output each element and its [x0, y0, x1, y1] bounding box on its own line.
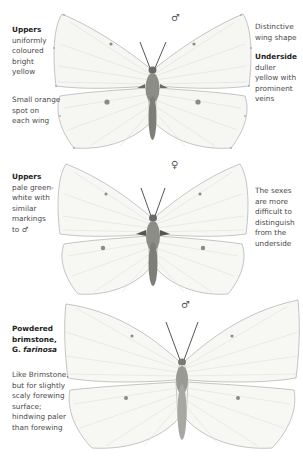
caption-line: surface; — [12, 402, 69, 413]
caption-heading: Underside — [255, 52, 297, 63]
caption-line: white with — [12, 193, 54, 204]
caption-line: yellow — [12, 67, 47, 78]
caption-line: wing shape — [255, 33, 297, 44]
caption-line: The sexes — [255, 186, 295, 197]
caption-line: hindwing paler — [12, 412, 69, 423]
caption-line: distinguish — [255, 218, 295, 229]
caption-line: duller — [255, 63, 297, 74]
caption-line: prominent — [255, 84, 297, 95]
caption-line: difficult to — [255, 207, 295, 218]
species-name-line: Powdered — [12, 324, 57, 335]
species-latin-name: G. farinosa — [12, 345, 57, 356]
caption-heading: Uppers — [12, 25, 47, 36]
caption-female-underside-note: The sexes are more difficult to distingu… — [255, 186, 295, 250]
caption-line: each wing — [12, 116, 60, 127]
caption-male-spot: Small orange spot on each wing — [12, 95, 60, 127]
caption-line: Distinctive — [255, 22, 297, 33]
caption-line: but for slightly — [12, 381, 69, 392]
caption-line: than forewing — [12, 423, 69, 434]
caption-powdered-brimstone-title: Powdered brimstone, G. farinosa — [12, 324, 57, 356]
caption-male-uppers: Uppers uniformly coloured bright yellow — [12, 25, 47, 78]
species-name-line: brimstone, — [12, 335, 57, 346]
caption-line: yellow with — [255, 73, 297, 84]
caption-powdered-brimstone-description: Like Brimstone, but for slightly scaly f… — [12, 370, 69, 434]
butterfly-illustration-female — [48, 158, 258, 298]
caption-line: spot on — [12, 106, 60, 117]
caption-male-underside: Underside duller yellow with prominent v… — [255, 52, 297, 105]
butterfly-illustration-powdered-brimstone — [62, 294, 302, 454]
species-epithet: farinosa — [23, 345, 57, 354]
caption-line: veins — [255, 94, 297, 105]
caption-female-uppers: Uppers pale green- white with similar ma… — [12, 172, 54, 236]
caption-line: bright — [12, 57, 47, 68]
caption-line: scaly forewing — [12, 391, 69, 402]
caption-line: Like Brimstone, — [12, 370, 69, 381]
caption-line: coloured — [12, 46, 47, 57]
caption-male-wing-shape: Distinctive wing shape — [255, 22, 297, 43]
caption-line: to ♂ — [12, 225, 54, 236]
caption-line: pale green- — [12, 183, 54, 194]
caption-line: uniformly — [12, 36, 47, 47]
caption-heading: Uppers — [12, 172, 54, 183]
caption-line: underside — [255, 239, 295, 250]
caption-line: markings — [12, 214, 54, 225]
genus-abbrev: G. — [12, 345, 23, 354]
caption-line: Small orange — [12, 95, 60, 106]
butterfly-illustration-male — [40, 8, 265, 153]
caption-line: from the — [255, 228, 295, 239]
caption-line: are more — [255, 197, 295, 208]
caption-line: similar — [12, 204, 54, 215]
